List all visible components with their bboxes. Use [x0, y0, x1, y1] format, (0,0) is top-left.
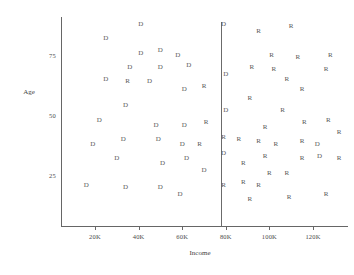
data-point-r: R [289, 23, 294, 30]
data-point-r: R [221, 133, 226, 140]
data-point-r: R [326, 116, 331, 123]
x-tick-mark [95, 226, 96, 230]
data-point-d: D [154, 121, 159, 128]
x-tick-label: 60K [176, 233, 188, 240]
data-point-r: R [204, 119, 209, 126]
x-tick-mark [313, 226, 314, 230]
data-point-r: R [337, 155, 342, 162]
data-point-d: D [221, 20, 226, 27]
data-point-r: R [256, 181, 261, 188]
data-point-r: R [287, 193, 292, 200]
data-point-r: R [202, 83, 207, 90]
data-point-r: R [284, 169, 289, 176]
data-point-r: R [324, 191, 329, 198]
y-tick-label: 75 [44, 52, 56, 59]
data-point-d: D [156, 136, 161, 143]
x-tick-mark [182, 226, 183, 230]
data-point-r: R [263, 124, 268, 131]
data-point-d: D [103, 76, 108, 83]
y-axis-line [61, 17, 62, 227]
data-point-r: R [256, 28, 261, 35]
data-point-r: R [241, 160, 246, 167]
data-point-r: R [274, 140, 279, 147]
data-point-r: R [241, 179, 246, 186]
y-tick-label: 50 [44, 112, 56, 119]
data-point-r: R [300, 85, 305, 92]
data-point-d: D [147, 78, 152, 85]
data-point-d: D [182, 121, 187, 128]
data-point-d: D [158, 64, 163, 71]
data-point-d: D [158, 184, 163, 191]
data-point-r: R [250, 64, 255, 71]
data-point-d: D [103, 35, 108, 42]
data-point-r: R [324, 66, 329, 73]
data-point-d: D [223, 107, 228, 114]
x-tick-mark [226, 226, 227, 230]
data-point-d: D [123, 102, 128, 109]
data-point-d: D [221, 150, 226, 157]
data-point-d: D [201, 167, 206, 174]
x-tick-label: 100K [262, 233, 277, 240]
data-point-r: R [300, 138, 305, 145]
data-point-d: D [114, 155, 119, 162]
data-point-r: R [221, 181, 226, 188]
x-axis-title: Income [190, 249, 211, 257]
data-point-r: R [295, 54, 300, 61]
y-tick-label: 25 [44, 172, 56, 179]
data-point-r: R [302, 119, 307, 126]
plot-area: 20K40K60K80K100K120K 755025 Age Income D… [0, 0, 354, 275]
data-point-r: R [263, 152, 268, 159]
data-point-r: R [271, 66, 276, 73]
data-point-r: R [328, 52, 333, 59]
data-point-r: R [247, 196, 252, 203]
scatter-plot-figure: 20K40K60K80K100K120K 755025 Age Income D… [0, 0, 354, 275]
data-point-d: D [182, 85, 187, 92]
data-point-r: R [280, 107, 285, 114]
data-point-d: D [97, 116, 102, 123]
x-tick-label: 80K [220, 233, 232, 240]
data-point-d: D [184, 155, 189, 162]
x-axis-line [61, 226, 348, 227]
data-point-d: D [186, 61, 191, 68]
decision-boundary-line [221, 22, 222, 227]
x-tick-label: 20K [89, 233, 101, 240]
data-point-r: R [237, 136, 242, 143]
data-point-d: D [138, 20, 143, 27]
data-point-r: R [337, 128, 342, 135]
data-point-r: R [267, 169, 272, 176]
x-tick-mark [269, 226, 270, 230]
data-point-d: D [121, 136, 126, 143]
x-tick-label: 120K [305, 233, 320, 240]
x-tick-label: 40K [133, 233, 145, 240]
data-point-d: D [90, 140, 95, 147]
data-point-d: D [158, 47, 163, 54]
data-point-r: R [247, 95, 252, 102]
data-point-r: R [269, 52, 274, 59]
data-point-r: R [125, 78, 130, 85]
data-point-d: D [138, 49, 143, 56]
data-point-d: D [317, 152, 322, 159]
data-point-d: D [160, 160, 165, 167]
data-point-d: D [177, 191, 182, 198]
data-point-r: R [197, 140, 202, 147]
data-point-d: D [223, 71, 228, 78]
data-point-r: R [300, 155, 305, 162]
data-point-d: D [84, 181, 89, 188]
data-point-d: D [175, 52, 180, 59]
data-point-d: D [127, 64, 132, 71]
data-point-r: R [284, 76, 289, 83]
data-point-r: R [256, 138, 261, 145]
data-point-d: D [315, 140, 320, 147]
data-point-d: D [123, 184, 128, 191]
x-tick-mark [139, 226, 140, 230]
data-point-d: D [180, 140, 185, 147]
y-axis-title: Age [23, 88, 35, 96]
